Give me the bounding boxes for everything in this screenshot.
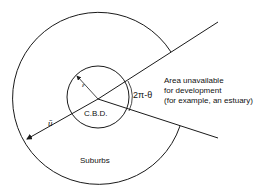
suburbs-label: Suburbs: [80, 156, 110, 166]
u-bar-label: ū: [48, 118, 53, 128]
city-diagram: C.B.D. Suburbs ε ū 2π-θ Area unavailable…: [0, 0, 275, 195]
epsilon-label: ε: [82, 80, 85, 90]
epsilon-radius-arrow: [77, 76, 98, 99]
area-label-line1: Area unavailable: [164, 76, 224, 86]
area-label-line3: (for example, an estuary): [164, 96, 253, 106]
area-label-line2: for development: [164, 86, 221, 96]
angle-label: 2π-θ: [133, 90, 152, 100]
u-bar-radius-arrow: [27, 99, 98, 139]
cbd-label: C.B.D.: [84, 109, 108, 119]
